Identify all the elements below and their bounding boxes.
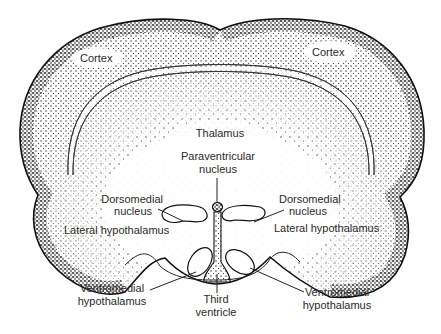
paraventricular-label-line1: Paraventricular bbox=[181, 150, 255, 162]
ventromedial-left-label-line2: hypothalamus bbox=[78, 295, 147, 307]
ventromedial-right-label-line2: hypothalamus bbox=[303, 299, 372, 311]
cortex-right-label-group: Cortex bbox=[304, 41, 356, 63]
dorsomedial-left-label-line1: Dorsomedial bbox=[101, 193, 163, 205]
lateral-hypothalamus-right-label: Lateral hypothalamus bbox=[274, 222, 380, 234]
ventromedial-left-label-line1: Ventromedial bbox=[80, 282, 144, 294]
dorsomedial-nucleus-right bbox=[222, 205, 265, 220]
dorsomedial-right-label-line2: nucleus bbox=[289, 205, 327, 217]
ventromedial-right-label-line1: Ventromedial bbox=[305, 286, 369, 298]
cortex-left-label-group: Cortex bbox=[71, 48, 123, 68]
third-ventricle-label-line2: ventricle bbox=[196, 306, 237, 318]
dorsomedial-left-label-line2: nucleus bbox=[114, 205, 152, 217]
cortex-right-label: Cortex bbox=[312, 46, 345, 58]
third-ventricle-label-line1: Third bbox=[203, 293, 228, 305]
brain-coronal-section-diagram: Cortex Cortex Thalamus Paraventricular n… bbox=[0, 0, 441, 334]
lateral-hypothalamus-left-label: Lateral hypothalamus bbox=[64, 224, 170, 236]
thalamus-label: Thalamus bbox=[196, 127, 245, 139]
paraventricular-label-line2: nucleus bbox=[199, 163, 237, 175]
dorsomedial-right-label-line1: Dorsomedial bbox=[279, 193, 341, 205]
cortex-left-label: Cortex bbox=[80, 52, 113, 64]
